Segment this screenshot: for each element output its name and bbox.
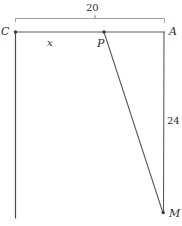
figure-canvas: [0, 0, 182, 226]
vertex-label-C: C: [1, 26, 9, 37]
brace-top: [16, 16, 165, 23]
figure-strokes: [15, 32, 165, 218]
measure-label-x: x: [47, 38, 53, 48]
vertex-dot-C: [14, 30, 17, 33]
vertex-dot-P: [102, 30, 105, 33]
geometry-figure: C A P M x 20 24: [0, 0, 182, 226]
vertex-dots: [14, 30, 165, 214]
brace-top-path: [16, 16, 165, 23]
segment-PM: [104, 32, 163, 213]
vertex-label-P: P: [97, 38, 104, 49]
vertex-label-A: A: [169, 26, 177, 37]
measure-label-24: 24: [167, 116, 180, 126]
segment-AM: [164, 32, 165, 213]
vertex-label-M: M: [169, 208, 180, 219]
measure-label-20: 20: [86, 3, 99, 13]
vertex-dot-M: [162, 211, 165, 214]
